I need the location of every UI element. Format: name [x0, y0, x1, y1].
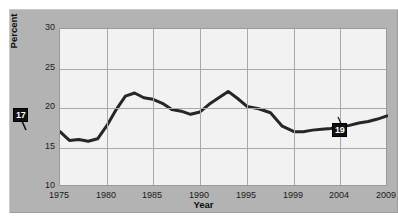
gridline-horizontal [60, 69, 386, 70]
gridline-vertical [200, 29, 201, 185]
callout-end-value: 19 [332, 123, 347, 137]
y-tick-label: 25 [35, 63, 55, 72]
chart-figure: 1015202530 19751980198519901995199920042… [0, 0, 398, 224]
chart-panel: 1015202530 19751980198519901995199920042… [9, 9, 398, 213]
y-tick-label: 10 [35, 181, 55, 190]
gridline-vertical [294, 29, 295, 185]
x-axis-title: Year [9, 199, 398, 210]
y-axis-title: Percent [8, 0, 19, 71]
gridline-horizontal [60, 108, 386, 109]
plot-area [59, 28, 387, 186]
gridline-vertical [247, 29, 248, 185]
gridline-vertical [340, 29, 341, 185]
gridline-vertical [107, 29, 108, 185]
y-tick-label: 30 [35, 23, 55, 32]
gridline-vertical [153, 29, 154, 185]
y-tick-label: 15 [35, 142, 55, 151]
callout-start-value: 17 [13, 108, 28, 122]
y-tick-label: 20 [35, 102, 55, 111]
gridline-horizontal [60, 148, 386, 149]
